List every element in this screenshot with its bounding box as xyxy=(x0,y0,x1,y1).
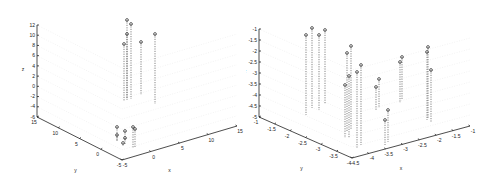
right-y-tick: -2 xyxy=(285,133,290,139)
right-y-tick: -1 xyxy=(254,119,259,125)
stem xyxy=(346,52,349,132)
right-x-tick: -1 xyxy=(471,128,476,134)
left-x-label: x xyxy=(168,167,171,173)
stem xyxy=(122,142,125,146)
stem xyxy=(318,34,321,110)
right-x-tick: -4.5 xyxy=(351,160,360,166)
right-z-tick: -4 xyxy=(253,92,258,98)
left-z-tick: 4 xyxy=(32,63,35,69)
stem xyxy=(311,27,314,108)
left-stem3-plot: -6-4-2024681012-5051015-5051015zyx xyxy=(0,0,245,177)
stem xyxy=(399,61,402,103)
right-stem3-plot: -5-4.5-4-3.5-3-2.5-2-1.5-1-4-3.5-3-2.5-2… xyxy=(246,0,491,177)
stem xyxy=(430,69,433,122)
right-x-tick: -3.5 xyxy=(384,151,393,157)
right-y-tick: -3 xyxy=(316,146,321,152)
right-z-tick: -4.5 xyxy=(248,103,257,109)
left-plot-canvas: -6-4-2024681012-5051015-5051015zyx xyxy=(0,0,245,177)
left-z-tick: 12 xyxy=(29,22,35,28)
left-x-tick: 5 xyxy=(181,145,184,151)
left-x-tick: 10 xyxy=(208,137,214,143)
left-x-tick: 0 xyxy=(152,154,155,160)
stem xyxy=(375,86,378,110)
stem xyxy=(348,75,351,138)
left-y-tick: 10 xyxy=(52,130,58,136)
stem xyxy=(344,84,347,138)
left-z-label: z xyxy=(22,66,25,72)
right-y-tick: -2.5 xyxy=(298,140,307,146)
left-grid xyxy=(37,25,237,160)
right-z-tick: -3 xyxy=(253,70,258,76)
stem xyxy=(130,23,133,99)
left-y-tick: -5 xyxy=(117,162,122,168)
left-y-tick: 5 xyxy=(75,141,78,147)
right-y-tick: -3.5 xyxy=(329,153,338,159)
stem xyxy=(123,43,126,101)
left-z-tick: -4 xyxy=(31,103,36,109)
left-z-tick: 0 xyxy=(32,83,35,89)
left-y-tick: 0 xyxy=(96,151,99,157)
right-z-tick: -1.5 xyxy=(248,37,257,43)
right-z-tick: -2.5 xyxy=(248,59,257,65)
left-z-tick: 8 xyxy=(32,42,35,48)
left-stems xyxy=(116,19,157,148)
stem xyxy=(134,128,137,148)
stem xyxy=(140,41,143,95)
stem xyxy=(378,78,381,108)
right-axes: -5-4.5-4-3.5-3-2.5-2-1.5-1-4-3.5-3-2.5-2… xyxy=(246,26,475,171)
left-z-tick: 2 xyxy=(32,73,35,79)
stem xyxy=(350,45,353,130)
right-z-tick: -1 xyxy=(253,26,258,32)
left-y-label: y xyxy=(74,167,77,173)
right-z-label: z xyxy=(246,68,247,74)
right-y-label: y xyxy=(300,165,303,171)
left-y-tick: 15 xyxy=(31,119,37,125)
right-x-tick: -2 xyxy=(437,137,442,143)
right-stems xyxy=(305,27,433,148)
stem xyxy=(305,34,308,115)
left-x-tick: 15 xyxy=(237,128,243,134)
right-x-tick: -2.5 xyxy=(418,142,427,148)
right-plot-canvas: -5-4.5-4-3.5-3-2.5-2-1.5-1-4-3.5-3-2.5-2… xyxy=(246,0,491,177)
stem xyxy=(324,29,327,104)
left-z-tick: 10 xyxy=(29,32,35,38)
right-z-tick: -2 xyxy=(253,48,258,54)
stem xyxy=(384,119,387,145)
stem xyxy=(356,71,359,148)
stem xyxy=(360,64,363,145)
left-x-tick: -5 xyxy=(123,162,128,168)
right-x-tick: -3 xyxy=(403,146,408,152)
right-x-tick: -1.5 xyxy=(452,133,461,139)
right-z-tick: -3.5 xyxy=(248,81,257,87)
right-x-label: x xyxy=(400,165,403,171)
left-z-tick: 6 xyxy=(32,52,35,58)
stem xyxy=(387,109,390,142)
left-z-tick: -2 xyxy=(31,93,36,99)
right-x-tick: -4 xyxy=(370,155,375,161)
right-y-tick: -1.5 xyxy=(267,126,276,132)
